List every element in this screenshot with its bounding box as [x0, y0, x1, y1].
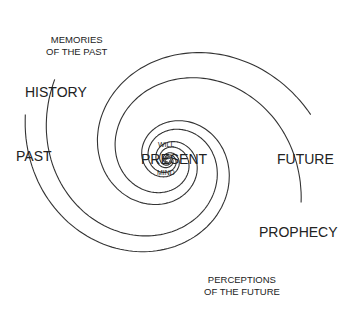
label-mind: MIND: [157, 169, 175, 176]
label-future: FUTURE: [277, 152, 334, 166]
label-will: WILL: [158, 141, 174, 148]
label-history: HISTORY: [25, 85, 87, 99]
label-past: PAST: [16, 149, 52, 163]
label-memories-of-the-past: MEMORIES OF THE PAST: [46, 34, 107, 58]
label-present: PRESENT: [141, 152, 207, 166]
spiral-arm: [115, 78, 301, 203]
spiral-arm: [25, 115, 229, 252]
label-prophecy: PROPHECY: [259, 225, 338, 239]
label-perceptions-of-the-future: PERCEPTIONS OF THE FUTURE: [204, 274, 280, 298]
